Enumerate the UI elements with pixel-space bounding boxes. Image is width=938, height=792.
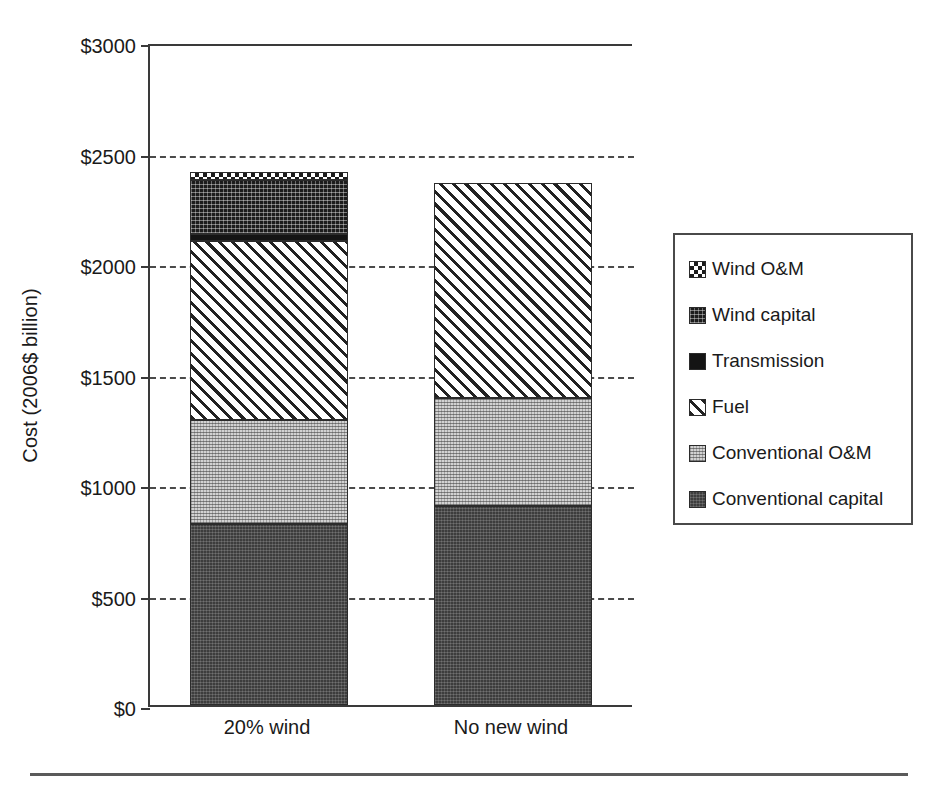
legend-item-label: Conventional O&M <box>712 442 871 464</box>
y-axis-tick-label: $2500 <box>80 145 136 168</box>
y-axis-tick-mark <box>141 156 150 158</box>
y-axis-tick-label: $500 <box>92 587 137 610</box>
stacked-bar-chart-figure: Cost (2006$ billion) $3000$2500$2000$150… <box>0 0 938 792</box>
legend-item-fuel[interactable]: Fuel <box>689 384 911 430</box>
y-axis-tick-mark <box>141 708 150 710</box>
y-axis-tick-label: $1500 <box>80 366 136 389</box>
legend-swatch-icon-transmission <box>689 353 706 370</box>
y-axis-tick-mark <box>141 487 150 489</box>
bar-1 <box>190 172 348 705</box>
legend-item-label: Wind capital <box>712 304 816 326</box>
legend-swatch-icon-wind-om <box>689 261 706 278</box>
bar-segment-fuel <box>190 241 348 420</box>
bar-segment-wind-capital <box>190 180 348 234</box>
bar-segment-conv-om <box>434 398 592 506</box>
legend-swatch-icon-fuel <box>689 399 706 416</box>
legend-item-label: Wind O&M <box>712 258 804 280</box>
y-axis-tick-label: $1000 <box>80 477 136 500</box>
legend-swatch-icon-conv-om <box>689 445 706 462</box>
bar-segment-fuel <box>434 183 592 397</box>
y-axis-tick-label: $0 <box>114 698 136 721</box>
legend-item-transmission[interactable]: Transmission <box>689 338 911 384</box>
y-axis-tick-label: $2000 <box>80 256 136 279</box>
y-axis-tick-label: $3000 <box>80 35 136 58</box>
y-axis-tick-mark <box>141 598 150 600</box>
bar-segment-conv-capital <box>434 506 592 705</box>
y-axis-title: Cost (2006$ billion) <box>10 44 50 707</box>
legend-item-label: Conventional capital <box>712 488 883 510</box>
legend-swatch-icon-wind-capital <box>689 307 706 324</box>
legend-item-conv-om[interactable]: Conventional O&M <box>689 430 911 476</box>
legend-swatch-icon-conv-capital <box>689 491 706 508</box>
x-axis-label-1: 20% wind <box>188 716 346 739</box>
gridline <box>150 156 634 158</box>
legend-item-conv-capital[interactable]: Conventional capital <box>689 476 911 522</box>
legend-item-label: Fuel <box>712 396 749 418</box>
legend-item-label: Transmission <box>712 350 824 372</box>
legend-item-wind-om[interactable]: Wind O&M <box>689 246 911 292</box>
y-axis-tick-mark <box>141 266 150 268</box>
x-axis-label-2: No new wind <box>432 716 590 739</box>
plot-area: $3000$2500$2000$1500$1000$500$0 <box>148 44 632 707</box>
bar-segment-conv-capital <box>190 524 348 705</box>
footer-rule <box>30 773 908 776</box>
legend-item-wind-capital[interactable]: Wind capital <box>689 292 911 338</box>
y-axis-tick-mark <box>141 377 150 379</box>
bar-2 <box>434 183 592 705</box>
bar-segment-transmission <box>190 234 348 241</box>
y-axis-title-text: Cost (2006$ billion) <box>19 288 42 462</box>
bar-segment-conv-om <box>190 420 348 524</box>
y-axis-tick-mark <box>141 45 150 47</box>
bar-segment-wind-om <box>190 172 348 180</box>
chart-legend: Wind O&MWind capitalTransmissionFuelConv… <box>673 233 913 525</box>
